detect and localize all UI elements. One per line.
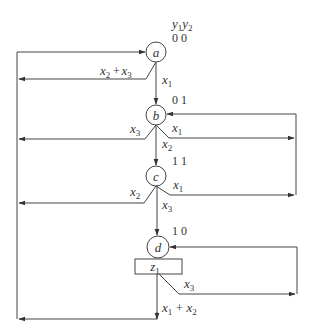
- svg-text:z1: z1: [149, 259, 160, 276]
- label-d-self: x3: [183, 276, 195, 293]
- transition-d-to-a: [19, 274, 157, 319]
- transition-a-self: [19, 62, 156, 79]
- label-c-to-a: x2: [129, 184, 140, 201]
- state-b-code: 0 1: [172, 93, 187, 107]
- state-a-code: 0 0: [172, 31, 187, 45]
- state-a-label: a: [153, 45, 160, 60]
- state-b: b: [146, 105, 166, 125]
- state-c-code: 1 1: [172, 154, 187, 168]
- label-c-to-d: x3: [161, 197, 173, 214]
- output-box-z1: z1: [135, 259, 182, 276]
- label-b-self: x1: [171, 120, 182, 137]
- return-bus-to-a: [17, 52, 145, 319]
- state-d: d: [147, 236, 169, 258]
- label-a-self: x2+x3: [99, 63, 132, 80]
- label-d-to-a: x1+x2: [161, 300, 197, 317]
- state-b-label: b: [153, 108, 160, 123]
- state-d-label: d: [155, 240, 162, 255]
- label-c-to-b: x1: [172, 177, 183, 194]
- state-c-label: c: [153, 169, 159, 184]
- transition-d-self: [159, 274, 295, 294]
- label-b-to-a: x3: [129, 121, 141, 138]
- state-d-code: 1 0: [172, 224, 187, 238]
- state-a: a: [146, 42, 166, 62]
- label-a-to-b: x1: [161, 72, 172, 89]
- asm-state-diagram: y1y2 0 0 a x2+x3 x1 0 1 b x3 x1 x2 1 1 c…: [0, 0, 313, 335]
- state-c: c: [146, 166, 166, 186]
- label-b-to-c: x2: [161, 136, 172, 153]
